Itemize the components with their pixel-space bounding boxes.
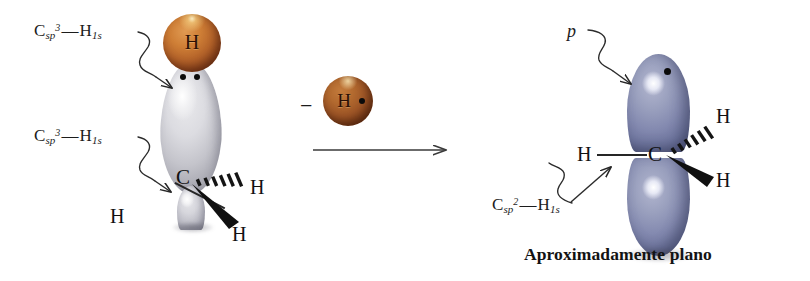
carbon-center-right: C: [648, 144, 662, 165]
label-p-orbital: p: [567, 22, 576, 40]
pointer-arrow-p: [588, 30, 631, 84]
hydrogen-wedge-left: H: [232, 224, 246, 244]
label-r-c: C: [492, 195, 504, 214]
label-bot-sub-shell: 1s: [92, 134, 102, 146]
label-bot-sub-hybrid: sp: [46, 134, 56, 146]
electron-dot-2: [194, 74, 200, 80]
hydrogen-hashed-left: H: [250, 177, 264, 197]
label-bot-h: H: [80, 126, 92, 145]
hydrogen-wedge-right: H: [716, 170, 730, 190]
label-top-sub-hybrid: sp: [46, 29, 56, 41]
minus-operator: −: [300, 95, 312, 117]
hydrogen-sphere-letter: H: [163, 31, 221, 54]
hydrogen-1s-sphere-left: H: [163, 14, 221, 72]
hydrogen-lower-left: H: [110, 206, 124, 226]
label-r-sub-hybrid: sp: [504, 203, 514, 215]
lobe-ground-shadow-left: [172, 222, 214, 233]
figure-caption: Aproximadamente plano: [524, 246, 712, 264]
label-bot-c: C: [34, 126, 46, 145]
bond-plain-right: [597, 154, 647, 156]
sp3-lobe-large-grey: [160, 62, 222, 194]
label-r-sub-shell: 1s: [550, 203, 560, 215]
label-top-dash: —: [61, 21, 80, 40]
vector-overlay: [0, 0, 810, 281]
label-top-sup-hybrid: 3: [55, 22, 60, 33]
electron-dot-1: [180, 74, 186, 80]
p-orbital-lobe-upper: [627, 54, 690, 152]
label-r-h: H: [538, 195, 550, 214]
hydrogen-radical-dot: [359, 98, 365, 104]
hydrogen-hashed-right: H: [716, 106, 730, 126]
hydrogen-left-right-structure: H: [577, 144, 591, 164]
label-r-sup-hybrid: 2: [513, 196, 518, 207]
label-bot-dash: —: [61, 126, 80, 145]
hydrogen-radical-sphere: H: [323, 76, 373, 126]
label-r-dash: —: [519, 195, 538, 214]
radical-electron-dot: [664, 68, 671, 75]
label-top-h: H: [80, 21, 92, 40]
label-bot-sup-hybrid: 3: [55, 127, 60, 138]
label-top-sub-shell: 1s: [92, 29, 102, 41]
label-csp2-h1s: Csp2—H1s: [492, 196, 560, 215]
label-top-c: C: [34, 21, 46, 40]
p-orbital-lobe-lower: [627, 158, 690, 256]
label-csp3-h1s-bottom: Csp3—H1s: [34, 127, 102, 146]
label-csp3-h1s-top: Csp3—H1s: [34, 22, 102, 41]
orbital-reaction-figure: Csp3—H1s Csp3—H1s H C H H H − H p Csp2—H…: [0, 0, 810, 281]
